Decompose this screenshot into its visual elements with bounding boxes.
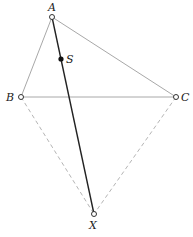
point-a [50,15,55,20]
point-s [58,56,63,61]
segment-ab [21,17,52,97]
diagram-svg: A B C S X [0,0,193,237]
label-a: A [47,1,56,14]
label-c: C [181,91,190,104]
segment-bx-dashed [21,97,94,214]
point-c [174,95,179,100]
label-s: S [66,53,74,66]
label-b: B [5,91,14,104]
label-x: X [88,219,98,232]
segment-cx-dashed [94,97,176,214]
geometry-diagram: A B C S X [0,0,193,237]
point-x [92,212,97,217]
point-b [19,95,24,100]
segment-ax [52,17,94,214]
